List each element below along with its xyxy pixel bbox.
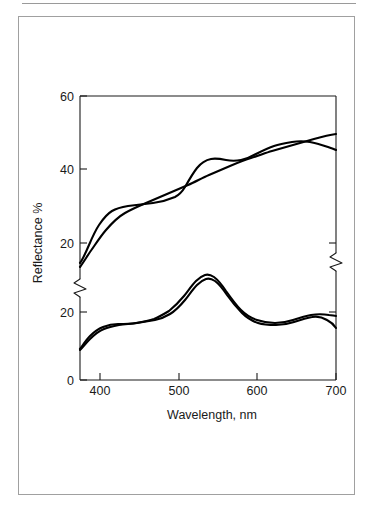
y-axis-title: Reflectance % <box>31 203 45 284</box>
y-axis-ticks <box>80 96 87 380</box>
lower-curve-1 <box>80 275 336 349</box>
upper-curve-1 <box>80 141 336 263</box>
upper-curve-2 <box>80 134 336 267</box>
y-axis-break-left-icon <box>74 279 86 297</box>
ytick-label-20-upper: 20 <box>60 237 74 251</box>
reflectance-chart: 60 40 20 20 0 400 500 600 700 Reflectanc… <box>0 0 374 513</box>
xtick-label-500: 500 <box>169 384 190 398</box>
y-axis-break-right-icon <box>330 253 342 271</box>
lower-panel-curves <box>80 275 336 350</box>
xtick-label-400: 400 <box>90 384 111 398</box>
ytick-label-0: 0 <box>67 374 74 388</box>
ytick-label-60: 60 <box>60 90 74 104</box>
lower-curve-2 <box>80 279 336 350</box>
plot-frame <box>80 96 336 380</box>
xtick-label-700: 700 <box>326 384 347 398</box>
xtick-label-600: 600 <box>247 384 268 398</box>
x-axis-title: Wavelength, nm <box>167 408 257 422</box>
ytick-label-40: 40 <box>60 163 74 177</box>
figure-root: 60 40 20 20 0 400 500 600 700 Reflectanc… <box>0 0 374 513</box>
ytick-label-20-lower: 20 <box>60 306 74 320</box>
x-axis-ticks <box>100 373 336 380</box>
upper-panel-curves <box>80 134 336 267</box>
